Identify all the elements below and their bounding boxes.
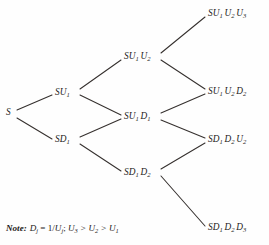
- note-equals: =: [38, 223, 48, 233]
- note-prefix: Note:: [6, 223, 27, 233]
- node-label-sd1d2u2: SD1D2U2: [208, 135, 246, 144]
- edge-su1d1-to-su1u2d2: [161, 94, 205, 113]
- note-definition-value: 1/Uj: [48, 223, 63, 233]
- node-label-sd1: SD1: [55, 135, 70, 144]
- edge-sd1-to-sd1d2: [80, 144, 121, 171]
- node-label-su1u2u3: SU1U2U3: [208, 9, 246, 18]
- node-label-su1u2d2: SU1U2D2: [208, 87, 246, 96]
- diagram-note: Note:Dj = 1/Uj; U3 > U2 > U1: [6, 224, 119, 233]
- edge-su1u2-to-su1u2d2: [161, 60, 205, 89]
- node-label-su1u2: SU1U2: [124, 52, 151, 61]
- node-label-sd1d2: SD1D2: [124, 168, 151, 177]
- edge-root-to-sd1: [17, 118, 52, 139]
- note-inequality: U3 > U2 > U1: [68, 223, 119, 233]
- edge-sd1-to-su1d1: [80, 119, 121, 137]
- lattice-diagram-canvas: S SU1 SD1 SU1U2 SU1D1 SD1D2 SU1U2U3 SU1U…: [0, 0, 269, 245]
- edge-root-to-su1: [17, 95, 52, 110]
- lattice-edges-layer: [0, 0, 269, 245]
- edge-su1u2-to-su1u2u3: [161, 17, 205, 53]
- edge-su1d1-to-sd1d2u2: [161, 120, 205, 138]
- node-label-sd1d2d3: SD1D2D3: [208, 223, 246, 232]
- edge-sd1d2-to-sd1d2u2: [161, 143, 205, 169]
- note-definition: Dj: [30, 223, 38, 233]
- node-label-su1: SU1: [55, 88, 70, 97]
- node-label-su1d1: SU1D1: [124, 112, 151, 121]
- node-label-root: S: [6, 108, 11, 117]
- edge-sd1d2-to-sd1d2d3: [161, 176, 205, 226]
- edge-su1-to-su1u2: [80, 60, 121, 89]
- edge-su1-to-su1d1: [80, 95, 121, 115]
